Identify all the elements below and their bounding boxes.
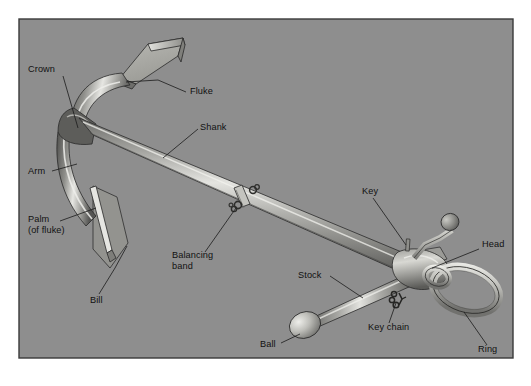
label-fluke: Fluke [190, 86, 213, 96]
figure-canvas: Crown Fluke Shank Arm Palm (of fluke) Bi… [0, 0, 531, 386]
label-crown: Crown [28, 64, 55, 74]
label-key-chain: Key chain [368, 322, 409, 332]
label-shank: Shank [200, 122, 227, 132]
label-stock: Stock [298, 270, 322, 280]
label-head: Head [482, 239, 504, 249]
anchor-diagram: Crown Fluke Shank Arm Palm (of fluke) Bi… [0, 0, 531, 386]
label-ring: Ring [478, 344, 497, 354]
label-bill: Bill [90, 295, 103, 305]
label-balancing-line2: band [172, 261, 193, 271]
label-palm-line1: Palm [28, 214, 50, 224]
label-arm: Arm [28, 166, 45, 176]
label-ball: Ball [260, 339, 276, 349]
label-palm-line2: (of fluke) [28, 225, 65, 235]
label-balancing-line1: Balancing [172, 250, 213, 260]
label-key: Key [362, 186, 378, 196]
